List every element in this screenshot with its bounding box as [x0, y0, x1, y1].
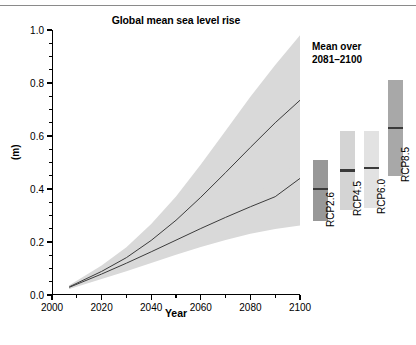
- y-tick-label: 0.4: [30, 184, 44, 195]
- y-axis-line: [52, 30, 53, 295]
- x-axis-title: Year: [52, 307, 300, 319]
- y-tick-label: 0.8: [30, 78, 44, 89]
- y-tick-minor: [49, 149, 52, 150]
- y-tick-minor: [49, 122, 52, 123]
- y-tick-minor: [49, 96, 52, 97]
- y-tick-label: 0.2: [30, 237, 44, 248]
- plot-area: 0.00.20.40.60.81.02000202020402060208021…: [52, 30, 300, 295]
- y-tick-minor: [49, 202, 52, 203]
- x-tick-minor: [126, 295, 127, 298]
- y-tick-minor: [49, 215, 52, 216]
- y-tick-minor: [49, 69, 52, 70]
- rcp-median-marker: [388, 127, 403, 129]
- rcp-median-marker: [364, 167, 379, 169]
- x-tick-label: 2040: [140, 302, 162, 313]
- x-tick: [51, 295, 52, 300]
- y-tick-label: 1.0: [30, 25, 44, 36]
- y-tick-minor: [49, 162, 52, 163]
- x-tick-minor: [175, 295, 176, 298]
- sea-level-projection-bands: [52, 30, 300, 295]
- y-tick-minor: [49, 255, 52, 256]
- y-tick: [47, 188, 52, 189]
- x-tick-minor: [76, 295, 77, 298]
- x-tick: [151, 295, 152, 300]
- y-tick-label: 0.0: [30, 290, 44, 301]
- x-tick-label: 2100: [289, 302, 311, 313]
- rcp-median-marker: [340, 169, 355, 171]
- legend-title-line-1: Mean over: [312, 40, 416, 53]
- y-tick: [47, 241, 52, 242]
- y-tick-label: 0.6: [30, 131, 44, 142]
- rcp-bar-label: RCP6.0: [376, 179, 387, 214]
- y-tick-minor: [49, 56, 52, 57]
- x-tick: [250, 295, 251, 300]
- y-axis-title: (m): [10, 144, 21, 160]
- legend-title: Mean over 2081–2100: [312, 40, 416, 66]
- rcp-median-marker: [313, 188, 328, 190]
- chart-title: Global mean sea level rise: [52, 14, 300, 26]
- rcp-bar-label: RCP2.6: [325, 192, 336, 227]
- y-tick: [47, 135, 52, 136]
- page-divider-rule: [0, 5, 416, 6]
- x-tick-label: 2080: [239, 302, 261, 313]
- y-tick-minor: [49, 109, 52, 110]
- x-tick-label: 2020: [90, 302, 112, 313]
- y-tick-minor: [49, 175, 52, 176]
- x-tick-minor: [225, 295, 226, 298]
- legend-title-line-2: 2081–2100: [312, 53, 416, 66]
- x-tick: [200, 295, 201, 300]
- rcp-bar-label: RCP4.5: [352, 181, 363, 216]
- x-tick-minor: [275, 295, 276, 298]
- y-tick: [47, 82, 52, 83]
- y-tick-minor: [49, 43, 52, 44]
- y-tick: [47, 29, 52, 30]
- rcp-bar-label: RCP8.5: [400, 147, 411, 182]
- y-tick-minor: [49, 281, 52, 282]
- figure-root: Global mean sea level rise (m) Year 0.00…: [0, 0, 416, 345]
- y-tick-minor: [49, 228, 52, 229]
- x-tick-label: 2000: [41, 302, 63, 313]
- x-tick: [299, 295, 300, 300]
- y-tick-minor: [49, 268, 52, 269]
- x-tick-label: 2060: [190, 302, 212, 313]
- x-tick: [101, 295, 102, 300]
